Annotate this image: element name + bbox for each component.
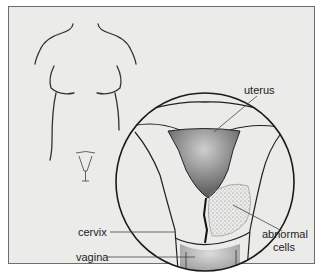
- label-vagina: vagina: [76, 251, 108, 263]
- small-uterus-icon: [76, 152, 95, 182]
- label-abnormal: abnormal: [262, 228, 308, 240]
- label-uterus: uterus: [244, 84, 275, 96]
- label-cells: cells: [273, 241, 295, 253]
- torso-outline: [35, 24, 136, 160]
- label-cervix: cervix: [78, 226, 107, 238]
